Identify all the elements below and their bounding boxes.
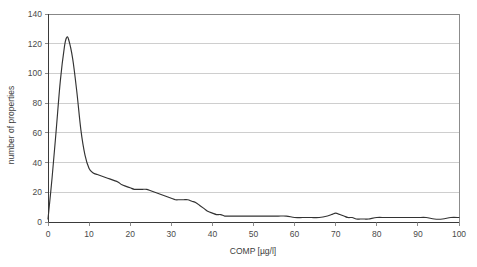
x-tick-label: 80 <box>372 229 382 239</box>
y-tick-label: 0 <box>37 217 42 227</box>
x-tick-label: 90 <box>413 229 423 239</box>
x-tick-label: 100 <box>452 229 466 239</box>
y-tick-label: 80 <box>33 98 43 108</box>
x-tick-label: 30 <box>167 229 177 239</box>
x-axis-title: COMP [µg/l] <box>230 246 276 256</box>
y-tick-label: 40 <box>33 158 43 168</box>
x-axis-ticks: 0102030405060708090100 <box>46 222 467 239</box>
x-tick-label: 40 <box>208 229 218 239</box>
chart-figure: 020406080100120140 010203040506070809010… <box>0 0 477 267</box>
y-tick-label: 140 <box>28 9 42 19</box>
y-tick-label: 120 <box>28 39 42 49</box>
y-axis-ticks: 020406080100120140 <box>28 9 48 227</box>
y-tick-label: 60 <box>33 128 43 138</box>
x-tick-label: 70 <box>331 229 341 239</box>
x-tick-label: 0 <box>46 229 51 239</box>
x-tick-label: 60 <box>290 229 300 239</box>
y-tick-label: 20 <box>33 187 43 197</box>
x-tick-label: 10 <box>84 229 94 239</box>
y-tick-label: 100 <box>28 68 42 78</box>
histogram-distribution-chart: 020406080100120140 010203040506070809010… <box>0 0 477 267</box>
x-tick-label: 20 <box>125 229 135 239</box>
x-tick-label: 50 <box>249 229 259 239</box>
plot-area-background <box>48 14 459 222</box>
y-axis-title: number of properties <box>6 86 16 164</box>
